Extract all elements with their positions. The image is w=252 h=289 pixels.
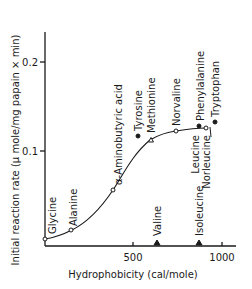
label-isoleucine: Isoleucine [194,186,205,236]
y-tick-label-0.1: 0.1 [22,146,38,157]
label-glycine: Glycine [47,197,58,234]
label-norvaline: Norvaline [171,78,182,126]
label-aminobutyric: α-Aminobutyric acid [113,84,124,185]
x-tick-label-1000: 1000 [209,252,234,263]
label-alanine: Alanine [68,189,79,226]
label-tryptophan: Tryptophan [210,61,221,118]
label-methionine: Methionine [146,77,157,133]
point-tryptophan [213,120,217,124]
label-leucine: Leucine [190,135,201,174]
point-isoleucine [196,240,202,245]
x-axis-title: Hydrophobicity (cal/mole) [68,269,197,280]
point-glycine [43,237,47,241]
y-tick-label-0.2: 0.2 [22,57,38,68]
label-tyrosine: Tyrosine [133,90,144,132]
point-phenylalanine [197,124,201,128]
point-norvaline [174,129,178,133]
hydrophobicity-reaction-rate-chart: 0.2 0.1 500 1000 Hydrophobicity (cal/mol… [0,0,252,289]
label-phenylalanine: Phenylalanine [195,51,206,121]
y-axis-title: Initial reaction rate (µ mole/mg papain … [10,35,21,266]
point-valine [154,240,160,245]
point-tyrosine [136,134,140,138]
label-valine: Valine [152,206,163,236]
point-labels: Glycine Alanine α-Aminobutyric acid Tyro… [47,51,221,236]
point-aminobutyric [111,188,115,192]
label-norleucine: Norleucine [201,135,212,189]
point-leucine-norleucine [204,126,208,130]
x-tick-label-500: 500 [123,252,142,263]
point-alanine [69,228,73,232]
